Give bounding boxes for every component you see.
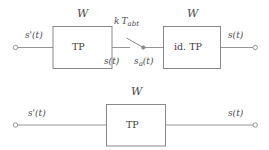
sampling-switch-arm [127,38,143,47]
switch-k-label: k [114,16,119,26]
sampled-signal-label: sa(t) [134,57,153,66]
sampling-switch-pivot [142,46,146,50]
top-input-terminal [13,45,17,49]
sampling-switch-label: kTabt [114,17,139,26]
bottom-input-terminal [13,123,17,127]
top-output-terminal [253,45,257,49]
sampled-signal-arg: (t) [143,56,154,66]
top-block-tp-bandwidth-label: W [77,8,88,19]
top-output-signal-label: s(t) [228,31,243,40]
bottom-output-terminal [253,123,257,127]
sampled-signal-subscript: a [139,60,143,68]
bottom-block-tp-label: TP [126,120,139,130]
sampled-signal-base: s [134,56,139,66]
bottom-block-bandwidth-label: W [131,86,142,97]
block-diagram-figure: s'(t) W TP s(t) kTabt sa(t) W id. TP s(t… [0,0,269,150]
top-block-tp-output-label: s(t) [104,57,119,66]
top-block-tp-label: TP [72,42,85,52]
top-block-id-tp-bandwidth-label: W [187,8,198,19]
bottom-output-signal-label: s(t) [228,109,243,118]
switch-period-subscript: abt [127,20,138,28]
top-input-signal-label: s'(t) [25,31,43,40]
bottom-input-signal-label: s'(t) [28,109,46,118]
top-block-id-tp-label: id. TP [174,42,202,52]
